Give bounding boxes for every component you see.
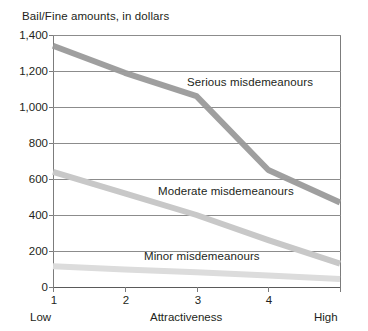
y-tick-label-800: 800 <box>4 137 48 149</box>
plot-area <box>0 0 368 331</box>
series-label-minor: Minor misdemeanours <box>144 250 260 262</box>
y-tick-marks <box>49 36 53 288</box>
y-tick-label-1400: 1,400 <box>4 29 48 41</box>
x-tick-label-1: 1 <box>39 294 69 306</box>
y-tick-label-400: 400 <box>4 209 48 221</box>
x-axis-low-label: Low <box>30 311 51 323</box>
y-tick-label-1200: 1,200 <box>4 65 48 77</box>
x-tick-label-3: 3 <box>183 294 213 306</box>
y-tick-label-200: 200 <box>4 245 48 257</box>
x-axis-high-label: High <box>314 311 338 323</box>
x-axis-title: Attractiveness <box>150 311 222 323</box>
series-label-serious: Serious misdemeanours <box>187 76 313 88</box>
x-tick-label-4: 4 <box>254 294 284 306</box>
x-tick-label-2: 2 <box>111 294 141 306</box>
series-line-minor <box>53 266 340 279</box>
chart-figure: Bail/Fine amounts, in dollars <box>0 0 368 331</box>
y-tick-label-600: 600 <box>4 173 48 185</box>
series-label-moderate: Moderate misdemeanours <box>158 185 294 197</box>
y-tick-label-0: 0 <box>4 281 48 293</box>
y-tick-label-1000: 1,000 <box>4 101 48 113</box>
series-line-serious <box>53 46 340 203</box>
